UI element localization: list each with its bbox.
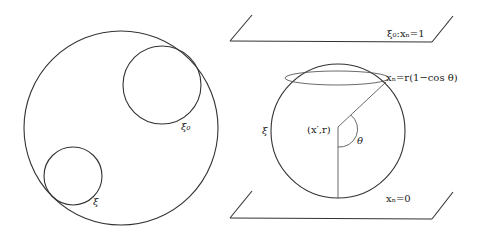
sphere-label-xi: ξ (262, 125, 268, 136)
horosphere-xi0-circle (123, 46, 201, 124)
center-label: (x′,r) (307, 124, 331, 135)
label-xi0: ξ₀ (181, 121, 191, 132)
cap-label: xₙ=r(1−cos θ) (386, 72, 458, 83)
horosphere-diagram: ξ₀ ξ ξ₀:xₙ=1 xₙ=r(1−cos θ) ξ (x′,r) θ xₙ… (0, 0, 477, 240)
top-plane-label: ξ₀:xₙ=1 (387, 28, 425, 39)
radius-line (338, 82, 386, 127)
angle-label-theta: θ (357, 135, 363, 146)
cap-ellipse (285, 71, 389, 85)
angle-arc (338, 115, 358, 147)
bottom-plane (230, 191, 453, 219)
left-figure: ξ₀ ξ (24, 31, 218, 225)
label-xi: ξ (93, 196, 99, 207)
right-figure: ξ₀:xₙ=1 xₙ=r(1−cos θ) ξ (x′,r) θ xₙ=0 (230, 15, 458, 219)
bottom-plane-label: xₙ=0 (386, 193, 411, 204)
